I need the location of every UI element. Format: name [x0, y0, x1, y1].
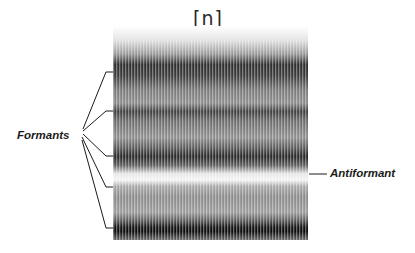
antiformant-label: Antiformant: [330, 167, 395, 179]
formant-leader-4: [82, 137, 113, 187]
formant-leader-1: [83, 72, 113, 129]
spectrogram: [113, 26, 308, 240]
formant-leader-3: [83, 134, 113, 156]
formant-leader-2: [83, 111, 113, 131]
formants-label: Formants: [17, 129, 69, 141]
formant-leader-5: [82, 140, 113, 228]
